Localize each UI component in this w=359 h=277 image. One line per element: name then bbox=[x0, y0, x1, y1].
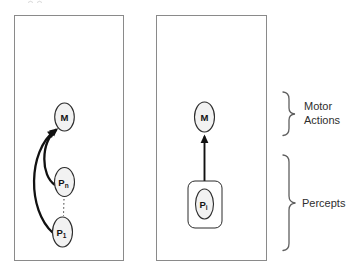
percepts-label: Percepts bbox=[302, 197, 346, 209]
motor-actions-label-line2: Actions bbox=[304, 114, 341, 126]
figure-agent-architecture-diagram: M Pn P1 M Pi Motor Actions Percepts bbox=[0, 0, 359, 277]
motor-actions-brace bbox=[283, 92, 295, 136]
node-m-left-label: M bbox=[61, 112, 69, 123]
diagram-canvas: M Pn P1 M Pi Motor Actions Percepts bbox=[0, 0, 359, 277]
node-pn-label-sub: n bbox=[65, 182, 69, 189]
cropped-print-artifact bbox=[28, 1, 42, 2]
percepts-brace bbox=[283, 155, 296, 251]
motor-actions-label-line1: Motor bbox=[304, 100, 332, 112]
node-pi-label-sub: i bbox=[206, 204, 208, 211]
node-p1-label-sub: 1 bbox=[63, 232, 67, 239]
node-m-right-label: M bbox=[201, 112, 209, 123]
